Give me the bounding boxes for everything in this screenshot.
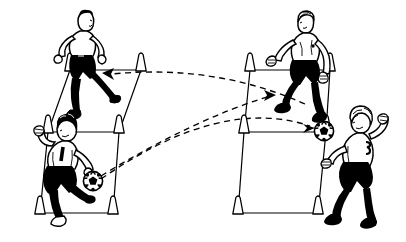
pass-path-left-to-right-lower — [101, 118, 310, 179]
ball-left-icon — [83, 171, 102, 191]
cone-icon — [239, 115, 249, 133]
cone-icon — [313, 196, 323, 214]
pass-path-left-to-right-upper — [101, 96, 270, 176]
right-lower-square — [238, 132, 326, 213]
soccer-drill-diagram: Soccer Passing Drill Diagram Line-art tr… — [0, 0, 406, 242]
player-top-left — [54, 10, 121, 119]
pass-path-right-to-left — [112, 72, 305, 104]
diagram-canvas — [0, 0, 406, 242]
cone-icon — [108, 196, 118, 214]
pass-paths — [101, 72, 310, 179]
player-top-right — [266, 11, 330, 123]
ball-right-icon — [314, 121, 333, 141]
cone-icon — [245, 53, 255, 71]
cone-grid-lines — [40, 70, 330, 213]
cone-icon — [114, 115, 124, 133]
cone-icon — [35, 196, 45, 214]
cone-icon — [136, 53, 146, 71]
cone-icon — [233, 196, 243, 214]
